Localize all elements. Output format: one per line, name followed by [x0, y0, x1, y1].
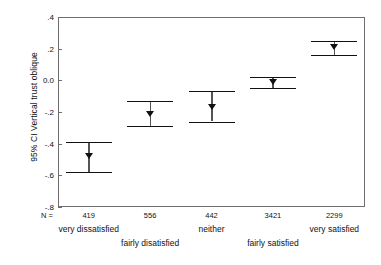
n-value: 419: [82, 211, 95, 220]
confidence-interval-chart: 95% CI Vertical trust oblique .4.20.0-.2…: [0, 0, 381, 265]
y-tick-mark: [58, 175, 62, 176]
errorbar-lower-cap: [66, 172, 112, 173]
y-tick-mark: [58, 80, 62, 81]
errorbar-upper-cap: [311, 41, 357, 42]
category-label: very satisfied: [309, 224, 359, 234]
y-tick-mark: [58, 144, 62, 145]
errorbar-lower-cap: [250, 88, 296, 89]
mean-marker: [85, 153, 93, 159]
errorbar-lower-cap: [189, 122, 235, 123]
data-layer: [58, 17, 365, 207]
y-tick-mark: [58, 112, 62, 113]
category-label: neither: [199, 224, 225, 234]
y-tick-label: -.2: [32, 108, 54, 117]
y-tick-mark: [58, 49, 62, 50]
category-label: fairly disatisfied: [121, 238, 179, 248]
category-label: fairly satisfied: [247, 238, 299, 248]
errorbar-upper-cap: [127, 101, 173, 102]
y-tick-label: -.6: [32, 171, 54, 180]
category-axis-labels: very dissatisfiedfairly disatisfiedneith…: [0, 222, 381, 262]
y-tick-label: .2: [32, 44, 54, 53]
mean-marker: [269, 79, 277, 85]
n-equals-label: N =: [41, 211, 53, 220]
y-tick-mark: [58, 207, 62, 208]
y-tick-label: 0.0: [32, 76, 54, 85]
mean-marker: [146, 111, 154, 117]
y-tick-label: .4: [32, 13, 54, 22]
errorbar-lower-cap: [127, 126, 173, 127]
category-label: very dissatisfied: [58, 224, 118, 234]
n-value: 3421: [265, 211, 282, 220]
n-value: 2299: [326, 211, 343, 220]
errorbar-upper-cap: [66, 142, 112, 143]
n-value: 556: [144, 211, 157, 220]
y-tick-label: -.4: [32, 139, 54, 148]
n-value: 442: [205, 211, 218, 220]
mean-marker: [208, 104, 216, 110]
mean-marker: [330, 44, 338, 50]
errorbar-upper-cap: [189, 91, 235, 92]
errorbar-lower-cap: [311, 55, 357, 56]
